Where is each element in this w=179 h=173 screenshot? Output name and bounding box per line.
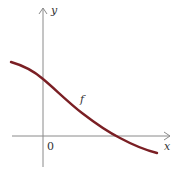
graph-canvas: y x 0 f [0, 0, 179, 173]
origin-label: 0 [47, 140, 54, 153]
x-axis-label: x [164, 140, 171, 153]
curve-label: f [79, 93, 86, 106]
y-axis-label: y [50, 4, 58, 17]
curve-f [11, 62, 157, 153]
